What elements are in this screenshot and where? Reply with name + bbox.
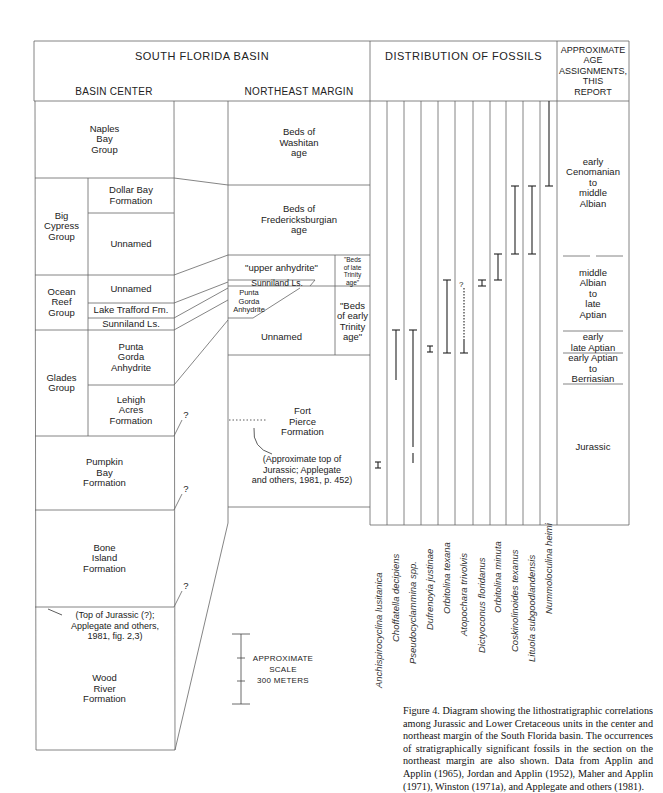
sunniland-limestone-margin: Sunniland Ls. — [242, 279, 312, 287]
unnamed-big-cypress: Unnamed — [88, 213, 174, 275]
big-cypress-group: Big Cypress Group — [35, 178, 88, 275]
top-of-jurassic-note: (Top of Jurassic (?); Applegate and othe… — [55, 608, 175, 644]
fossil-name: Anchispirocyclina lusitanica — [373, 572, 384, 688]
question-mark-1: ? — [181, 409, 191, 421]
age-albian-aptian: middle Albian to late Aptian — [557, 258, 629, 330]
fossils-heading: DISTRIBUTION OF FOSSILS — [370, 48, 557, 64]
figure-caption: Figure 4. Diagram showing the lithostrat… — [403, 705, 653, 793]
fossil-name: Choffatella decipiens — [390, 554, 401, 642]
fossil-name: Nummoloculina heimi — [543, 523, 554, 614]
sunniland-limestone-center: Sunniland Ls. — [88, 318, 174, 330]
beds-of-fredericksburgian-age: Beds of Fredericksburgian age — [228, 185, 370, 255]
fossil-name: Dufrenoyia justinae — [424, 549, 435, 630]
basin-center-heading: BASIN CENTER — [34, 86, 194, 98]
beds-of-washitan-age: Beds of Washitan age — [228, 101, 370, 185]
lake-trafford-formation: Lake Trafford Fm. — [88, 303, 174, 318]
age-early-late-aptian: early late Aptian — [557, 332, 629, 353]
ocean-reef-group: Ocean Reef Group — [35, 275, 88, 330]
age-heading: APPROXIMATE AGE ASSIGNMENTS, THIS REPORT — [557, 43, 629, 99]
beds-early-trinity-age: "Beds of early Trinity age" — [335, 288, 370, 355]
fossil-name: Atopochara trivolvis — [458, 553, 469, 636]
wood-river-formation: Wood River Formation — [35, 664, 174, 714]
fossil-name: Lituola subgoodlandensis — [526, 555, 537, 662]
age-aptian-berriasian: early Aptian to Berriasian — [557, 354, 629, 384]
pumpkin-bay-formation: Pumpkin Bay Formation — [35, 436, 174, 510]
fossil-name: Orbitolina minuta — [492, 541, 503, 613]
jurassic-top-note: (Approximate top of Jurassic; Applegate … — [240, 453, 364, 487]
dollar-bay-formation: Dollar Bay Formation — [88, 178, 174, 213]
age-cenomanian-albian: early Cenomanian to middle Albian — [557, 150, 629, 216]
upper-anhydrite: "upper anhydrite" — [228, 258, 335, 278]
fossil-name: Orbitolina texana — [441, 542, 452, 614]
fossil-name: Pseudocyclammina spp. — [407, 561, 418, 664]
glades-group: Glades Group — [35, 330, 88, 436]
unnamed-ocean-reef: Unnamed — [88, 275, 174, 303]
naples-bay-group: Naples Bay Group — [35, 101, 174, 178]
unnamed-margin: Unnamed — [228, 320, 335, 355]
question-mark-3: ? — [181, 580, 191, 592]
bone-island-formation: Bone Island Formation — [35, 510, 174, 607]
question-mark-2: ? — [181, 483, 191, 495]
punta-gorda-anhydrite-margin: Punta Gorda Anhydrite — [226, 288, 272, 316]
fossil-name: Coskinolinoides texanus — [509, 550, 520, 652]
punta-gorda-anhydrite-center: Punta Gorda Anhydrite — [88, 330, 174, 385]
fossil-name: Dictyoconus floridanus — [476, 557, 487, 653]
question-mark-atopochara: ? — [459, 280, 463, 289]
beds-late-trinity-age: "Beds of late Trinity age" — [335, 256, 370, 286]
age-jurassic: Jurassic — [557, 440, 629, 454]
northeast-margin-heading: NORTHEAST MARGIN — [228, 86, 370, 98]
basin-title: SOUTH FLORIDA BASIN — [34, 48, 370, 64]
fort-pierce-formation: Fort Pierce Formation — [270, 405, 335, 439]
lehigh-acres-formation: Lehigh Acres Formation — [88, 385, 174, 436]
scale-label: APPROXIMATE SCALE 300 METERS — [250, 651, 316, 687]
